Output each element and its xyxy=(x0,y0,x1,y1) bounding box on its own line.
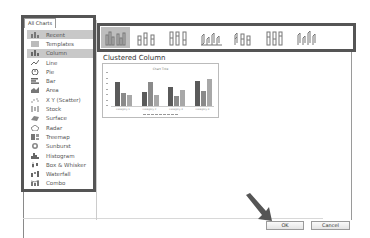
chart-category-recent[interactable]: Recent xyxy=(27,30,93,39)
pie-chart-icon xyxy=(31,69,39,75)
subtype-3d-clustered-column-button[interactable] xyxy=(197,27,226,48)
chart-preview[interactable]: Chart Title Category 1Category 2Category… xyxy=(102,63,219,118)
chart-category-label: Templates xyxy=(46,41,74,47)
preview-category-group xyxy=(168,73,185,106)
y-axis-tick xyxy=(106,83,108,84)
y-axis-tick xyxy=(106,89,108,90)
3d-column-icon xyxy=(296,30,320,46)
area-chart-icon xyxy=(31,87,39,93)
chart-category-label: X Y (Scatter) xyxy=(46,97,81,103)
preview-bar xyxy=(195,81,200,106)
chart-category-label: Pie xyxy=(46,69,54,75)
chart-category-column[interactable]: Column xyxy=(27,49,93,58)
chart-category-label: Column xyxy=(46,50,67,56)
y-axis-tick xyxy=(106,100,108,101)
preview-bar xyxy=(115,82,120,106)
stock-chart-icon xyxy=(31,106,39,112)
subtype-3d-stacked-column-button[interactable] xyxy=(229,27,258,48)
chart-category-waterfall[interactable]: Waterfall xyxy=(27,169,93,178)
y-axis-tick xyxy=(106,105,108,106)
recent-icon xyxy=(31,32,39,38)
ok-button[interactable]: OK xyxy=(266,221,304,230)
chart-category-label: Treemap xyxy=(46,134,70,140)
chart-category-label: Combo xyxy=(46,180,65,186)
box-whisker-chart-icon xyxy=(31,162,39,168)
chart-category-label: Stock xyxy=(46,106,61,112)
chart-category-pie[interactable]: Pie xyxy=(27,67,93,76)
3d-100-stacked-column-icon xyxy=(264,30,288,46)
chart-category-label: Surface xyxy=(46,115,67,121)
chart-category-surface[interactable]: Surface xyxy=(27,114,93,123)
line-chart-icon xyxy=(31,60,39,66)
clustered-column-icon xyxy=(104,30,128,46)
subtype-stacked-column-button[interactable] xyxy=(133,27,162,48)
preview-pane-border xyxy=(351,52,352,220)
cancel-button[interactable]: Cancel xyxy=(311,221,350,230)
radar-chart-icon xyxy=(31,125,39,131)
y-axis-tick xyxy=(106,94,108,95)
subtype-100-stacked-column-button[interactable] xyxy=(165,27,194,48)
combo-chart-icon xyxy=(31,180,39,186)
chart-category-label: Sunburst xyxy=(46,143,71,149)
chart-category-label: Box & Whisker xyxy=(46,162,86,168)
3d-clustered-column-icon xyxy=(200,30,224,46)
preview-legend xyxy=(143,114,179,116)
chart-category-label: Radar xyxy=(46,125,62,131)
preview-category-label: Category 3 xyxy=(166,108,186,111)
chart-category-x-y-scatter[interactable]: X Y (Scatter) xyxy=(27,95,93,104)
preview-bar xyxy=(201,91,206,106)
preview-bar xyxy=(207,79,212,107)
chart-category-sunburst[interactable]: Sunburst xyxy=(27,142,93,151)
chart-category-box-whisker[interactable]: Box & Whisker xyxy=(27,160,93,169)
column-chart-icon xyxy=(31,50,39,56)
chart-subtype-gallery xyxy=(101,27,322,48)
dialog-divider xyxy=(23,218,323,219)
preview-bar xyxy=(148,82,153,106)
chart-category-bar[interactable]: Bar xyxy=(27,76,93,85)
chart-category-label: Waterfall xyxy=(46,171,71,177)
3d-stacked-column-icon xyxy=(232,30,256,46)
preview-bar xyxy=(180,90,185,107)
y-axis-tick xyxy=(106,78,108,79)
waterfall-chart-icon xyxy=(31,171,39,177)
preview-bar xyxy=(168,87,173,106)
preview-bar xyxy=(127,95,132,106)
100-stacked-column-icon xyxy=(168,30,192,46)
subtype-3d-column-button[interactable] xyxy=(293,27,322,48)
templates-icon xyxy=(31,41,39,47)
tab-all-charts[interactable]: All Charts xyxy=(24,18,56,28)
preview-bar xyxy=(174,96,179,106)
y-axis-tick xyxy=(106,72,108,73)
preview-category-group xyxy=(142,73,159,106)
preview-category-label: Category 1 xyxy=(113,108,133,111)
chart-category-label: Histogram xyxy=(46,153,75,159)
chart-category-line[interactable]: Line xyxy=(27,58,93,67)
subtype-3d-100-stacked-column-button[interactable] xyxy=(261,27,290,48)
sunburst-chart-icon xyxy=(31,143,39,149)
subtype-clustered-column-button[interactable] xyxy=(101,27,130,48)
chart-category-treemap[interactable]: Treemap xyxy=(27,132,93,141)
preview-bar xyxy=(154,95,159,106)
preview-category-group xyxy=(195,73,212,106)
preview-category-label: Category 2 xyxy=(140,108,160,111)
surface-chart-icon xyxy=(31,115,39,121)
chart-category-area[interactable]: Area xyxy=(27,86,93,95)
chart-category-combo[interactable]: Combo xyxy=(27,179,93,188)
subtype-title: Clustered Column xyxy=(103,54,165,62)
chart-category-histogram[interactable]: Histogram xyxy=(27,151,93,160)
pointer-arrow-icon xyxy=(244,193,274,223)
treemap-chart-icon xyxy=(31,134,39,140)
preview-plot-area: Category 1Category 2Category 3Category 4 xyxy=(111,73,214,107)
chart-category-radar[interactable]: Radar xyxy=(27,123,93,132)
chart-category-label: Line xyxy=(46,60,57,66)
chart-category-label: Recent xyxy=(46,32,65,38)
preview-bar xyxy=(142,92,147,106)
chart-category-stock[interactable]: Stock xyxy=(27,104,93,113)
chart-category-list: RecentTemplatesColumnLinePieBarAreaX Y (… xyxy=(27,30,93,188)
bar-chart-icon xyxy=(31,78,39,84)
chart-category-label: Bar xyxy=(46,78,55,84)
chart-category-templates[interactable]: Templates xyxy=(27,39,93,48)
preview-category-label: Category 4 xyxy=(193,108,213,111)
histogram-chart-icon xyxy=(31,153,39,159)
stacked-column-icon xyxy=(136,30,160,46)
